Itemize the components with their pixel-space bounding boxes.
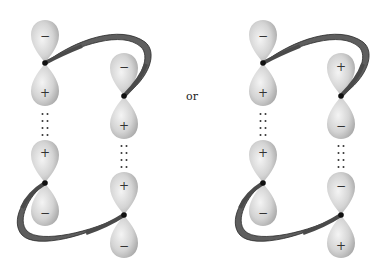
sign-plus: + [336, 60, 346, 74]
nucleus-dot [121, 93, 127, 99]
nucleus-dot [121, 212, 127, 218]
sign-plus: + [119, 119, 129, 133]
sign-plus: + [40, 86, 50, 100]
sign-plus: + [258, 86, 268, 100]
ellipsis-dots [121, 145, 128, 168]
sign-minus: − [119, 60, 129, 74]
sign-minus: − [336, 119, 346, 133]
nucleus-dot [260, 60, 266, 66]
sign-minus: − [40, 206, 50, 220]
nucleus-dot [338, 212, 344, 218]
nucleus-dot [42, 180, 48, 186]
sign-minus: − [258, 206, 268, 220]
sign-plus: + [336, 239, 346, 253]
sign-minus: − [258, 29, 268, 43]
sign-minus: − [336, 179, 346, 193]
sign-minus: − [40, 29, 50, 43]
sign-minus: − [119, 239, 129, 253]
ellipsis-dots [42, 113, 49, 136]
nucleus-dot [338, 93, 344, 99]
left-figure: − + − + + − + − [17, 20, 151, 258]
ellipsis-dots [260, 113, 267, 136]
right-figure: − + + − + − − + [235, 20, 369, 258]
or-label: or [186, 90, 199, 103]
ellipsis-dots [338, 145, 345, 168]
sign-plus: + [40, 146, 50, 160]
sign-plus: + [258, 146, 268, 160]
nucleus-dot [260, 180, 266, 186]
nucleus-dot [42, 60, 48, 66]
sign-plus: + [119, 179, 129, 193]
orbital-diagram: − + − + + − + − [0, 0, 388, 275]
